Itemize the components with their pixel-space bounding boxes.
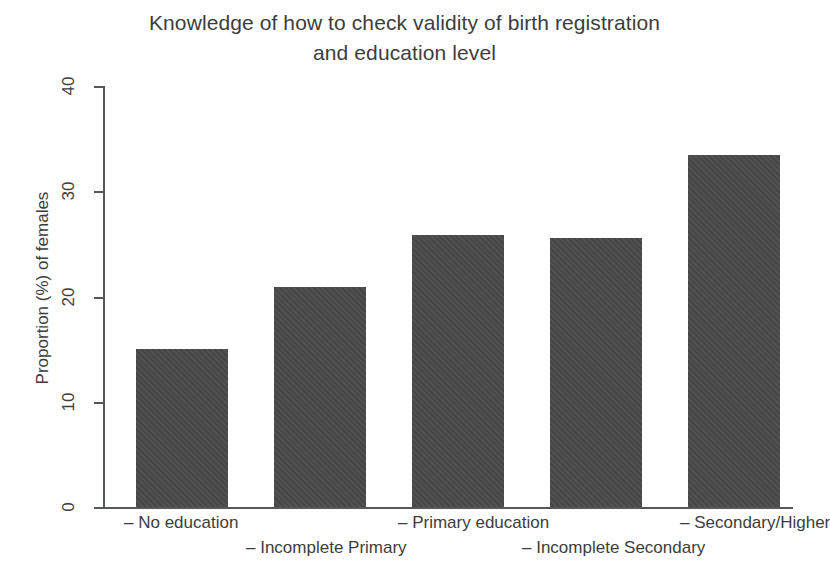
y-tick-20 bbox=[94, 297, 103, 299]
x-axis-label-incomplete-secondary: – Incomplete Secondary bbox=[522, 536, 705, 560]
y-axis-title: Proportion (%) of females bbox=[30, 68, 56, 508]
x-axis-labels: – No education– Incomplete Primary– Prim… bbox=[0, 509, 809, 573]
y-tick-label-10: 10 bbox=[60, 384, 78, 420]
y-axis-line bbox=[103, 86, 105, 509]
y-tick-label-30: 30 bbox=[60, 173, 78, 209]
plot-area: 010203040 bbox=[103, 86, 793, 509]
y-tick-label-20: 20 bbox=[60, 279, 78, 315]
bar-primary-education bbox=[412, 235, 504, 507]
bar-incomplete-secondary bbox=[550, 238, 642, 507]
bar-no-education bbox=[136, 349, 228, 507]
y-tick-label-40: 40 bbox=[60, 68, 78, 104]
chart-title-line-1: Knowledge of how to check validity of bi… bbox=[0, 8, 809, 38]
x-axis-label-no-education: – No education bbox=[124, 511, 238, 535]
y-tick-10 bbox=[94, 402, 103, 404]
bar-incomplete-primary bbox=[274, 287, 366, 507]
bar-secondary-higher bbox=[688, 155, 780, 507]
y-tick-30 bbox=[94, 191, 103, 193]
chart-title: Knowledge of how to check validity of bi… bbox=[0, 8, 809, 68]
x-axis-label-secondary-higher: – Secondary/Higher bbox=[680, 511, 830, 535]
y-tick-40 bbox=[94, 86, 103, 88]
chart-title-line-2: and education level bbox=[0, 38, 809, 68]
x-axis-label-incomplete-primary: – Incomplete Primary bbox=[246, 536, 407, 560]
x-axis-label-primary-education: – Primary education bbox=[398, 511, 549, 535]
